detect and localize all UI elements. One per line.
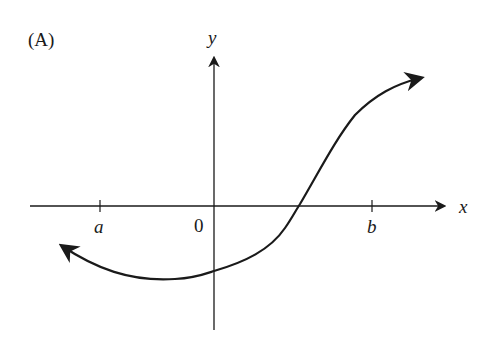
x-axis-label: x xyxy=(458,196,468,217)
tick-label-b: b xyxy=(367,216,377,237)
panel-label: (A) xyxy=(28,29,54,51)
tick-label-a: a xyxy=(94,216,104,237)
graph-canvas: (A) y x 0 a b xyxy=(0,0,499,345)
y-axis-label: y xyxy=(206,27,217,48)
function-curve xyxy=(62,78,421,279)
origin-label: 0 xyxy=(194,215,204,236)
